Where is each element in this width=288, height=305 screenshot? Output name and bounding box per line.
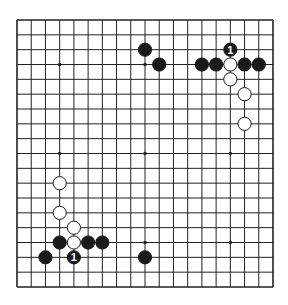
black-stone <box>210 58 223 71</box>
move-number-label: 1 <box>71 251 77 263</box>
star-point <box>229 152 233 156</box>
white-stone <box>238 117 251 130</box>
black-stone <box>238 58 251 71</box>
go-board: 11 <box>0 0 288 305</box>
star-point <box>58 152 62 156</box>
black-stone: 1 <box>224 43 237 56</box>
star-point <box>143 241 147 245</box>
black-stone <box>252 58 265 71</box>
star-point <box>58 63 62 67</box>
star-point <box>143 63 147 67</box>
black-stone <box>153 58 166 71</box>
move-number-label: 1 <box>227 44 233 56</box>
white-stone <box>238 88 251 101</box>
black-stone <box>53 236 66 249</box>
white-stone <box>53 206 66 219</box>
white-stone <box>224 58 237 71</box>
white-stone <box>53 177 66 190</box>
black-stone <box>138 43 151 56</box>
black-stone <box>195 58 208 71</box>
black-stone <box>39 251 52 264</box>
star-point <box>143 152 147 156</box>
white-stone <box>67 236 80 249</box>
white-stone <box>67 221 80 234</box>
black-stone <box>96 236 109 249</box>
black-stone: 1 <box>67 251 80 264</box>
black-stone <box>138 251 151 264</box>
black-stone <box>82 236 95 249</box>
star-point <box>229 241 233 245</box>
white-stone <box>224 73 237 86</box>
